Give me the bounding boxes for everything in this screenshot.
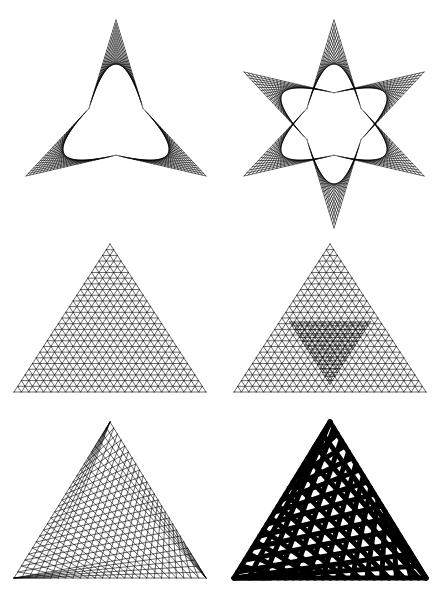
figure-panel-deltoid-envelope: [8, 12, 220, 210]
triangle-stitch-lines-outer: [234, 244, 426, 392]
triangle-stitch-lines-skewed: [14, 422, 206, 578]
triangle-stitch-lines-skewed: [234, 422, 426, 578]
triangle-stitch-lines: [14, 244, 206, 392]
figure-panel-triangle-rotated-inner-deltoid-thin: [8, 414, 220, 586]
figure-panel-triangle-rotated-inner-deltoid-thick: [228, 414, 440, 586]
deltoid-stitch-lines-up: [244, 20, 424, 176]
figure-panel-triangle-inscribed-curved-triangle: [8, 238, 220, 398]
figure-panel-six-point-star-double-deltoid: [228, 12, 440, 224]
figure-sheet: [0, 0, 441, 600]
deltoid-stitch-lines: [26, 20, 206, 176]
figure-panel-triangle-with-nested-inner-deltoid: [228, 238, 440, 398]
deltoid-stitch-lines-down: [244, 72, 424, 228]
